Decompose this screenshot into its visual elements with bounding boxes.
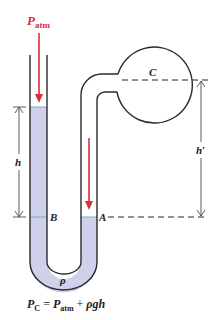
bulb-c <box>117 47 192 123</box>
p-atm-arrow-down-icon <box>35 94 43 103</box>
p-atm-label: Patm <box>27 13 50 30</box>
point-b-label: B <box>49 211 57 223</box>
fluid-fill <box>30 107 97 292</box>
density-label: ρ <box>59 274 66 286</box>
manometer-diagram: Patm C h h′ B A ρ PC = Patm + ρgh <box>0 0 215 320</box>
point-a-label: A <box>98 211 106 223</box>
h-prime-label: h′ <box>196 144 205 156</box>
bulb-c-label: C <box>149 66 157 78</box>
formula: PC = Patm + ρgh <box>27 297 106 313</box>
h-label: h <box>15 156 21 168</box>
right-arrow-down-icon <box>85 201 93 210</box>
